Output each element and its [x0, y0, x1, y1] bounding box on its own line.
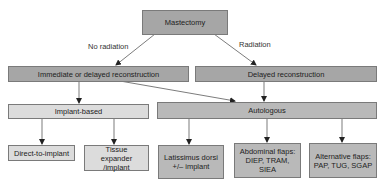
node-delayed-reconstruction: Delayed reconstruction: [195, 66, 377, 82]
node-implant-based: Implant-based: [8, 104, 149, 119]
node-direct-to-implant: Direct-to-implant: [8, 145, 75, 161]
node-mastectomy: Mastectomy: [142, 10, 228, 35]
node-latissimus-dorsi: Latissimus dorsi +/– implant: [158, 145, 224, 179]
edge-label-no-radiation: No radiation: [88, 42, 128, 51]
node-autologous: Autologous: [157, 102, 377, 119]
node-abdominal-flaps: Abdominal flaps: DIEP, TRAM, SIEA: [234, 143, 301, 178]
node-tissue-expander-implant: Tissue expander /implant: [84, 145, 149, 171]
node-alternative-flaps: Alternative flaps: PAP, TUG, SGAP: [309, 143, 377, 178]
node-immediate-or-delayed-reconstruction: Immediate or delayed reconstruction: [8, 66, 189, 82]
edge-label-radiation: Radiation: [239, 40, 271, 49]
